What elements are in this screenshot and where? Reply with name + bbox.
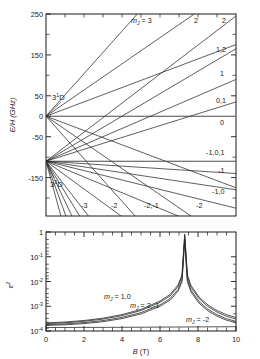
annotation-mj2-a: 2: [194, 16, 198, 25]
curve-mj-m2: [46, 327, 236, 328]
lower-y-axis-label: ε2: [5, 282, 15, 288]
annotation-bottom-m3: -3: [81, 201, 87, 210]
figure-svg: 250 150 50 0 -50 -150 E/H (GHz): [0, 0, 260, 359]
lower-xtick-3: 6: [158, 335, 162, 344]
annotation-bottom-m2m1: -2,-1: [144, 201, 159, 210]
annotation-mj1: 1: [220, 69, 224, 78]
annotation-lower-mj-2-m1: mJ = 2,-1: [130, 301, 159, 311]
upper-ytick-3: 0: [39, 112, 43, 121]
state-label-triplet: 33D: [50, 179, 63, 189]
level-triplet-steep3: [46, 161, 140, 359]
lower-ytick-4: 10-4: [30, 326, 43, 336]
annotation-lower-mj-m2: mJ = -2: [186, 315, 209, 325]
lower-xtick-5: 10: [232, 335, 240, 344]
lower-ytick-0: 1: [39, 228, 43, 237]
upper-ytick-4: -50: [32, 133, 43, 142]
level-triplet-mjm2a: [46, 161, 236, 208]
level-triplet-mjm1a: [46, 161, 236, 173]
annotation-mj01: 0,1: [216, 96, 226, 105]
upper-y-axis-label: E/H (GHz): [8, 97, 17, 132]
annotation-mjm10: -1,0: [212, 187, 224, 196]
annotation-mjm101: -1,0,1: [206, 148, 224, 157]
annotation-bottom-m2b: -2: [196, 201, 202, 210]
upper-ytick-1: 150: [31, 51, 43, 60]
upper-ytick-5: -150: [28, 174, 43, 183]
level-triplet-steep4: [46, 161, 118, 359]
figure-container: 250 150 50 0 -50 -150 E/H (GHz): [0, 0, 260, 359]
annotation-mj2-b: 2: [222, 16, 226, 25]
level-triplet-mjm2b: [46, 161, 236, 240]
lower-curves: [46, 234, 236, 328]
annotation-lower-mj-1-0: mJ = 1,0: [104, 292, 131, 302]
level-triplet-steep5: [46, 161, 100, 359]
level-triplet-steep1: [46, 161, 200, 359]
state-label-singlet: 31D: [52, 92, 65, 102]
annotation-mjm1: -1: [218, 166, 224, 175]
lower-ytick-3: 10-3: [30, 301, 43, 311]
annotation-mj0: 0: [220, 118, 224, 127]
lower-ytick-1: 10-1: [30, 252, 43, 262]
lower-ytick-2: 10-2: [30, 277, 43, 287]
level-triplet-mj1a: [46, 49, 236, 162]
upper-ytick-2: 50: [35, 92, 43, 101]
level-singlet-mj1: [46, 45, 236, 117]
annotation-mj-3: mJ = 3: [131, 16, 152, 26]
lower-xtick-2: 4: [120, 335, 124, 344]
curve-mj-2-m1: [46, 239, 236, 325]
level-triplet-mj2: [46, 16, 236, 161]
annotation-mj12: 1,2: [216, 45, 226, 54]
lower-xtick-1: 2: [82, 335, 86, 344]
annotation-bottom-m2: -2: [111, 201, 117, 210]
lower-xtick-0: 0: [44, 335, 48, 344]
lower-panel: 1 10-1 10-2 10-3 10-4 ε2: [5, 228, 240, 356]
level-triplet-steep2: [46, 161, 168, 359]
lower-x-axis-label: B (T): [133, 347, 149, 356]
upper-ytick-0: 250: [31, 10, 43, 19]
leader-singlet: [48, 102, 62, 115]
lower-xtick-4: 8: [196, 335, 200, 344]
level-triplet-mjm1b: [46, 161, 236, 190]
